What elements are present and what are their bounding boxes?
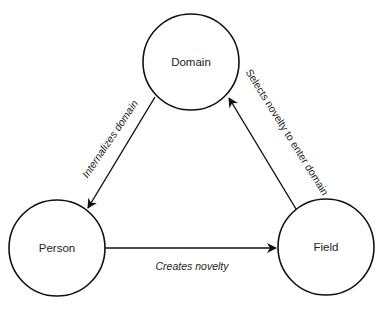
- node-domain: Domain: [143, 14, 239, 110]
- edge-label-internalizes-domain: Internalizes domain: [79, 98, 140, 180]
- node-field: Field: [278, 199, 374, 295]
- edge-domain-to-person: Internalizes domain: [79, 97, 155, 208]
- edge-field-to-domain: Selects novelty to enter domain: [229, 67, 331, 209]
- creativity-systems-diagram: Internalizes domain Creates novelty Sele…: [0, 0, 383, 309]
- edge-label-creates-novelty: Creates novelty: [156, 260, 230, 272]
- edge-person-to-field: Creates novelty: [105, 248, 276, 272]
- node-field-label: Field: [314, 241, 339, 253]
- node-domain-label: Domain: [171, 56, 211, 68]
- arrow-field-to-domain: [229, 98, 296, 209]
- edge-label-selects-novelty: Selects novelty to enter domain: [243, 67, 331, 198]
- node-person: Person: [9, 200, 105, 296]
- node-person-label: Person: [39, 242, 75, 254]
